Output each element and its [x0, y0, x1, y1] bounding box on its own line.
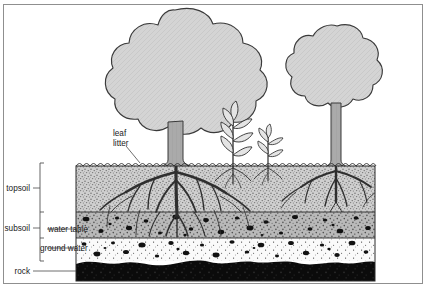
- tree-canopy-left: [105, 8, 267, 134]
- soil-block: [76, 164, 376, 282]
- label-leaf-litter-line2: litter: [113, 139, 129, 148]
- label-ground-water: ground water: [40, 244, 88, 253]
- layer-subsoil: [76, 212, 375, 238]
- label-rock: rock: [15, 267, 31, 276]
- tree-canopy-right: [286, 25, 383, 107]
- label-topsoil: topsoil: [6, 184, 30, 193]
- large-tree-left: [105, 8, 267, 167]
- diagram-canvas: leaf litter topsoil subsoil water table …: [0, 0, 430, 289]
- label-leaf-litter-line1: leaf: [113, 129, 127, 138]
- layer-rock: [76, 260, 375, 281]
- soil-profile-illustration: leaf litter topsoil subsoil water table …: [0, 0, 430, 289]
- label-water-table: water table: [47, 225, 88, 234]
- seedling-short-leaves: [258, 124, 283, 157]
- leaf-litter-leader: [126, 146, 140, 163]
- tree-trunk-right: [325, 103, 348, 167]
- label-subsoil: subsoil: [5, 224, 31, 233]
- large-tree-right: [286, 25, 383, 167]
